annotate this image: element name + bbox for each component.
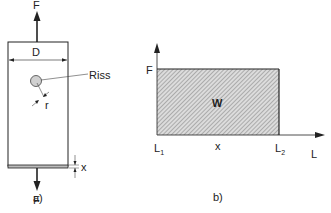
crack-circle	[31, 76, 42, 87]
crack-label: Riss	[89, 69, 111, 81]
width-label: D	[32, 46, 40, 58]
force-top-label: F	[33, 0, 40, 11]
panel-b: W F L L1 x L2	[146, 43, 325, 160]
force-arrow-up-icon	[34, 11, 41, 42]
bottom-plate	[8, 165, 68, 168]
caption-a-html: a)	[33, 192, 43, 204]
y-axis-label: F	[146, 64, 153, 76]
caption-b: b)	[213, 191, 223, 203]
radius-label: r	[45, 99, 49, 111]
area-label: W	[212, 97, 223, 109]
x-start-label: L1	[154, 142, 164, 156]
specimen-body	[8, 42, 68, 166]
force-arrow-down-icon	[34, 168, 41, 191]
x-mid-label: x	[215, 140, 221, 152]
panel-a: F D Riss r	[8, 0, 111, 206]
x-end-label: L2	[275, 142, 285, 156]
thickness-dimension	[69, 155, 79, 178]
thickness-label: x	[81, 161, 87, 173]
x-axis-label: L	[311, 148, 317, 160]
